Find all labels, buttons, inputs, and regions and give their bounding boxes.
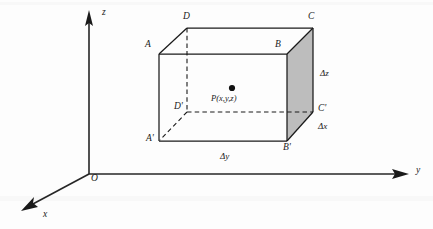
vertex-label-Dprime: D' — [174, 102, 183, 112]
vertex-label-B: B — [275, 40, 281, 50]
y-axis-label: y — [416, 166, 420, 176]
dimension-label-delta-x: Δx — [318, 122, 327, 131]
vertex-label-A: A — [145, 40, 151, 50]
diagram-svg — [0, 0, 433, 229]
dimension-label-delta-z: Δz — [320, 69, 329, 78]
axis-group — [21, 10, 409, 211]
dimension-label-delta-y: Δy — [220, 152, 229, 161]
x-axis-line — [31, 174, 89, 205]
figure-canvas: z y x O D C A B D' C' A' B' P(x,y,z) Δz … — [0, 0, 433, 229]
vertex-label-D: D — [183, 12, 190, 22]
vertex-label-Cprime: C' — [318, 104, 326, 114]
shaded-right-face — [287, 28, 313, 141]
z-axis-label: z — [102, 8, 106, 18]
point-P-marker — [229, 85, 235, 91]
vertex-label-Aprime: A' — [146, 134, 154, 144]
x-axis-label: x — [43, 210, 47, 220]
vertex-label-C: C — [308, 12, 314, 22]
edge-Dprime-Aprime-hidden — [160, 112, 187, 140]
vertex-label-Bprime: B' — [283, 143, 291, 153]
x-axis-arrowhead — [21, 197, 38, 211]
edge-A-D — [159, 28, 187, 54]
origin-label: O — [91, 174, 98, 184]
point-P-label: P(x,y,z) — [211, 94, 237, 103]
